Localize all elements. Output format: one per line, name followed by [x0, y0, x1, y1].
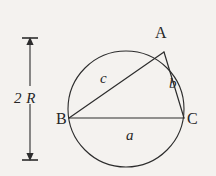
side-c-line [69, 52, 164, 118]
diameter-dimension-label: 2 R [14, 91, 36, 106]
geometry-figure-canvas: A B C a b c 2 R [0, 0, 216, 176]
vertex-label-c: C [187, 111, 198, 127]
figure-svg [0, 0, 216, 176]
side-label-c: c [100, 71, 107, 86]
circumcircle [68, 51, 184, 167]
side-label-a: a [126, 128, 134, 143]
side-label-b: b [169, 76, 177, 91]
vertex-label-a: A [155, 25, 167, 41]
vertex-label-b: B [56, 111, 67, 127]
